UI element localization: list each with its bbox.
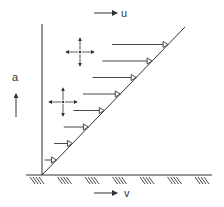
velocity-arrow (54, 141, 72, 147)
hatch-group (85, 177, 99, 184)
top-velocity-indicator: u (94, 7, 127, 19)
hatch-group (195, 177, 209, 184)
velocity-arrow (112, 42, 168, 48)
height-indicator: a (12, 71, 19, 117)
velocity-arrow (102, 58, 152, 64)
hatch-group (30, 177, 44, 184)
stress-cross-icon (66, 38, 94, 66)
velocity-arrow (73, 108, 104, 114)
stress-point (79, 51, 81, 53)
bottom-velocity-label: v (124, 187, 130, 199)
hatch-group (113, 177, 127, 184)
height-label: a (12, 71, 19, 83)
hatch-group (140, 177, 154, 184)
stress-crosses (49, 38, 94, 116)
bottom-velocity-indicator: v (94, 187, 130, 199)
ground-boundary (26, 175, 212, 184)
velocity-arrow (93, 75, 137, 81)
hatch-group (168, 177, 182, 184)
top-velocity-label: u (121, 7, 127, 19)
ground-hatching (30, 177, 209, 184)
stress-point (62, 101, 64, 103)
velocity-arrow (64, 124, 89, 130)
flow-diagram: u a v (0, 0, 224, 207)
velocity-arrow (83, 91, 120, 97)
stress-cross-icon (49, 88, 77, 116)
hatch-group (58, 177, 72, 184)
